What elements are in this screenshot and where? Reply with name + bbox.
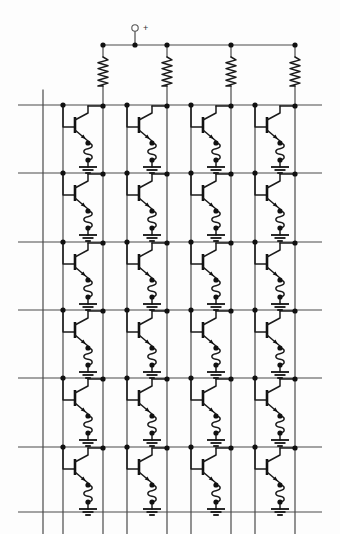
emitter-node [85,345,90,350]
emitter-lead [267,198,280,209]
emitter-lead [267,335,280,346]
base-lead [63,378,75,400]
emitter-node [277,208,282,213]
emitter-lead [267,472,280,483]
coil-bottom-node [277,499,282,504]
row-collector-junction [100,308,105,313]
row-collector-junction [100,103,105,108]
row-base-junction [188,239,193,244]
emitter-lead [203,472,216,483]
emitter-node [149,140,154,145]
collector-lead [75,448,88,462]
emitter-node [149,345,154,350]
coil-bottom-node [277,225,282,230]
ground-symbol [207,167,225,173]
device-layer [63,25,300,515]
base-lead [255,310,267,332]
supply-plus-label: + [143,23,148,33]
ground-symbol [207,440,225,446]
collector-lead [139,106,152,120]
base-lead [191,310,203,332]
supply-column-junction [228,42,233,47]
emitter-node [85,413,90,418]
ground-symbol [271,440,289,446]
row-base-junction [188,375,193,380]
emitter-lead [75,267,88,278]
emitter-node [277,140,282,145]
collector-lead [203,106,216,120]
coil-bottom-node [85,430,90,435]
row-base-junction [252,170,257,175]
ground-symbol [79,304,97,310]
base-lead [63,310,75,332]
coil-bottom-node [85,499,90,504]
pull-up-resistor [290,57,300,86]
row-base-junction [60,239,65,244]
collector-lead [75,379,88,393]
emitter-node [213,413,218,418]
collector-lead [203,174,216,188]
coil-bottom-node [149,157,154,162]
row-base-junction [188,170,193,175]
emitter-lead [139,198,152,209]
base-lead [191,173,203,195]
row-collector-junction [164,103,169,108]
collector-lead [75,106,88,120]
emitter-node [277,277,282,282]
emitter-node [277,345,282,350]
row-base-junction [124,375,129,380]
coil-bottom-node [85,157,90,162]
emitter-lead [139,472,152,483]
coil-bottom-node [213,225,218,230]
ground-symbol [79,235,97,241]
collector-lead [139,174,152,188]
emitter-lead [139,335,152,346]
ground-symbol [143,372,161,378]
row-collector-junction [100,240,105,245]
collector-lead [75,174,88,188]
base-lead [127,310,139,332]
row-base-junction [124,307,129,312]
collector-lead [203,448,216,462]
coil-bottom-node [149,294,154,299]
base-lead [255,378,267,400]
pull-up-resistor [226,57,236,86]
base-lead [255,105,267,127]
collector-lead [203,379,216,393]
supply-terminal[interactable] [132,25,138,31]
coil-bottom-node [213,157,218,162]
emitter-lead [203,130,216,141]
supply-rail-junction [132,42,137,47]
base-lead [255,447,267,469]
row-collector-junction [292,376,297,381]
collector-lead [203,311,216,325]
collector-lead [267,174,280,188]
coil-bottom-node [149,499,154,504]
row-collector-junction [292,308,297,313]
coil-bottom-node [213,499,218,504]
ground-symbol [143,304,161,310]
emitter-lead [75,472,88,483]
emitter-node [213,277,218,282]
label-layer: + [143,23,148,33]
emitter-node [213,482,218,487]
coil-bottom-node [149,430,154,435]
emitter-node [149,482,154,487]
coil-bottom-node [277,157,282,162]
emitter-lead [139,403,152,414]
row-collector-junction [228,171,233,176]
row-collector-junction [228,376,233,381]
emitter-lead [203,198,216,209]
emitter-lead [75,198,88,209]
ground-symbol [79,167,97,173]
row-base-junction [124,102,129,107]
coil-bottom-node [213,294,218,299]
row-collector-junction [292,240,297,245]
supply-column-junction [292,42,297,47]
collector-lead [267,311,280,325]
emitter-node [85,482,90,487]
emitter-lead [203,267,216,278]
pull-up-resistor [98,57,108,86]
collector-lead [75,243,88,257]
collector-lead [203,243,216,257]
